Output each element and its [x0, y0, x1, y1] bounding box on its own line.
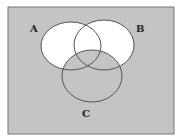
set-c-label: C: [82, 108, 90, 119]
set-b-label: B: [136, 23, 144, 34]
venn-diagram: A B C: [0, 0, 177, 138]
set-a-label: A: [29, 23, 38, 34]
